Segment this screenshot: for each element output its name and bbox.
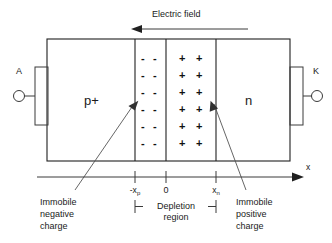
- depletion-label-line2: region: [163, 212, 188, 222]
- svg-text:-: -: [153, 120, 157, 132]
- svg-text:Immobile: Immobile: [236, 197, 273, 207]
- svg-text:+: +: [196, 52, 202, 64]
- svg-text:+: +: [179, 137, 185, 149]
- svg-text:-: -: [153, 103, 157, 115]
- svg-text:+: +: [179, 86, 185, 98]
- svg-text:-: -: [153, 52, 157, 64]
- svg-text:-: -: [141, 137, 145, 149]
- svg-text:-: -: [141, 103, 145, 115]
- svg-text:charge: charge: [40, 221, 68, 231]
- svg-text:positive: positive: [236, 209, 267, 219]
- svg-text:+: +: [179, 120, 185, 132]
- svg-text:+: +: [179, 103, 185, 115]
- tick-label-xn: xn: [212, 185, 220, 196]
- tick-label-minus-xp: -xp: [130, 185, 141, 196]
- svg-text:-: -: [153, 69, 157, 81]
- svg-text:+: +: [196, 103, 202, 115]
- left-callout-leader: [75, 98, 141, 190]
- cathode-label: K: [313, 66, 319, 76]
- svg-text:-: -: [153, 86, 157, 98]
- right-callout-leader: [206, 99, 246, 190]
- svg-text:Immobile: Immobile: [40, 197, 77, 207]
- tick-label-zero: 0: [163, 185, 168, 195]
- svg-text:-: -: [141, 86, 145, 98]
- depletion-label-line1: Depletion: [157, 201, 195, 211]
- svg-text:+: +: [179, 52, 185, 64]
- p-region-label: p+: [84, 93, 99, 108]
- svg-text:charge: charge: [236, 221, 264, 231]
- svg-text:-: -: [141, 120, 145, 132]
- svg-text:+: +: [196, 137, 202, 149]
- x-axis-label: x: [306, 162, 311, 172]
- n-region-label: n: [245, 93, 252, 108]
- electric-field-arrow: [131, 25, 248, 33]
- right-callout-text: Immobile positive charge: [236, 197, 273, 231]
- svg-text:-: -: [141, 69, 145, 81]
- x-axis: [37, 171, 304, 183]
- positive-charge-grid: ++ ++ ++ ++ ++ ++: [179, 52, 202, 149]
- anode-label: A: [16, 66, 22, 76]
- svg-text:+: +: [179, 69, 185, 81]
- svg-text:-: -: [153, 137, 157, 149]
- negative-charge-grid: -- -- -- -- -- --: [141, 52, 157, 149]
- electric-field-label: Electric field: [152, 9, 201, 19]
- svg-text:+: +: [196, 69, 202, 81]
- svg-text:negative: negative: [40, 209, 74, 219]
- diagram-canvas: Electric field A K p+ n -- -- -- --: [0, 0, 332, 243]
- left-callout-text: Immobile negative charge: [40, 197, 77, 231]
- svg-text:-: -: [141, 52, 145, 64]
- svg-text:+: +: [196, 86, 202, 98]
- svg-text:+: +: [196, 120, 202, 132]
